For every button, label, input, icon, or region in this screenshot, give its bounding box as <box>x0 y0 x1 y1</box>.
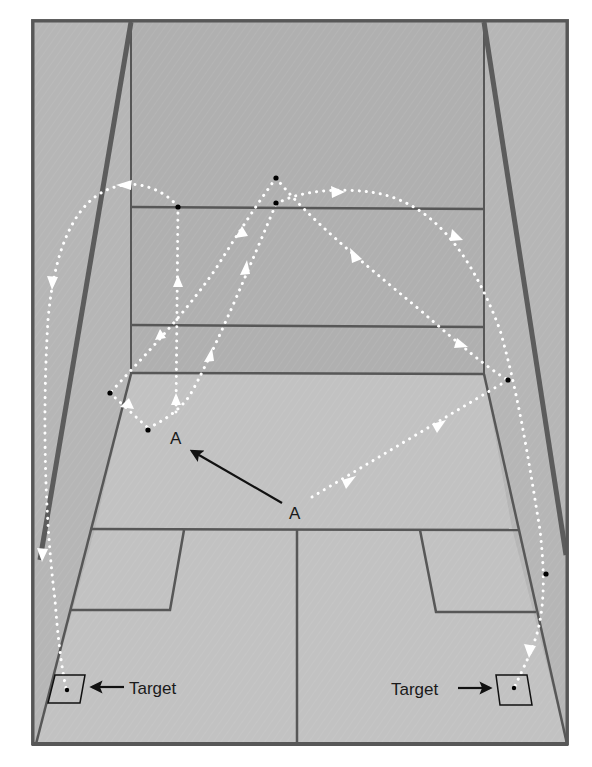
target-label-right: Target <box>391 680 439 699</box>
contact-dot <box>273 175 278 180</box>
floor-front-edge <box>131 373 484 374</box>
player-label-end: A <box>170 429 182 448</box>
target-label-left: Target <box>129 679 177 698</box>
contact-dot <box>107 390 112 395</box>
player-label-start: A <box>289 504 301 523</box>
court-diagram: Target Target A A <box>0 0 592 767</box>
contact-dot <box>145 427 150 432</box>
target-dot-left <box>65 688 69 692</box>
contact-dot <box>505 377 510 382</box>
short-line-floor <box>90 529 518 530</box>
contact-dot <box>273 200 278 205</box>
contact-dot <box>543 571 548 576</box>
target-dot-right <box>512 686 516 690</box>
contact-dot <box>175 204 180 209</box>
